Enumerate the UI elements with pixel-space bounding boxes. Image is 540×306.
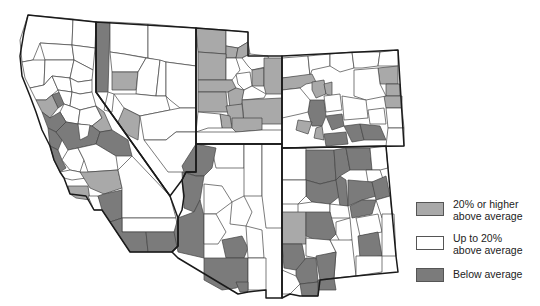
choropleth-map	[0, 0, 540, 306]
legend-swatch-mid	[416, 236, 444, 250]
legend-item-mid: Up to 20% above average	[416, 232, 539, 256]
legend-label-mid-line2: above average	[453, 244, 539, 256]
utah-counties	[196, 28, 282, 144]
legend-label-high-line1: 20% or higher	[453, 198, 539, 210]
arizona-counties	[174, 144, 282, 292]
legend-label-high-line2: above average	[453, 210, 539, 222]
legend-swatch-high	[416, 202, 444, 216]
legend-item-high: 20% or higher above average	[416, 198, 539, 222]
legend-label-low-line1: Below average	[453, 268, 539, 280]
legend-label-mid-line1: Up to 20%	[453, 232, 539, 244]
legend-swatch-low	[416, 268, 444, 282]
legend-item-low: Below average	[416, 268, 539, 282]
colorado-counties	[282, 50, 404, 146]
